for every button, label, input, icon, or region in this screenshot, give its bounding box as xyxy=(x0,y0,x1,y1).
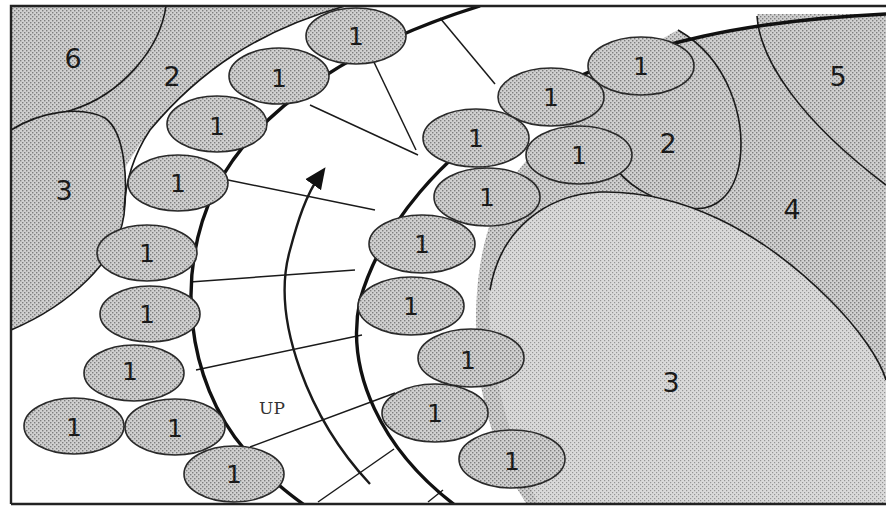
region-label-4: 4 xyxy=(783,194,800,225)
svg-text:1: 1 xyxy=(66,413,82,442)
region-label-3-bottom-right: 3 xyxy=(662,367,679,398)
cell: 1 xyxy=(418,329,524,387)
svg-text:1: 1 xyxy=(348,22,364,51)
svg-text:1: 1 xyxy=(543,83,559,112)
cell: 1 xyxy=(358,277,464,335)
cell: 1 xyxy=(167,96,267,152)
svg-text:1: 1 xyxy=(504,447,520,476)
svg-text:1: 1 xyxy=(633,52,649,81)
svg-text:1: 1 xyxy=(414,230,430,259)
cell: 1 xyxy=(434,168,540,226)
svg-text:1: 1 xyxy=(209,112,225,141)
cell: 1 xyxy=(369,215,475,273)
cell: 1 xyxy=(459,430,565,488)
svg-text:1: 1 xyxy=(167,414,183,443)
svg-text:1: 1 xyxy=(468,124,484,153)
svg-text:1: 1 xyxy=(226,460,242,489)
channel-diagram: 1 1 1 1 1 1 1 1 xyxy=(0,0,886,509)
svg-text:1: 1 xyxy=(271,64,287,93)
svg-text:1: 1 xyxy=(139,300,155,329)
svg-text:1: 1 xyxy=(403,292,419,321)
flow-label-up: UP xyxy=(259,398,285,418)
region-label-5: 5 xyxy=(829,61,846,92)
cell: 1 xyxy=(526,126,632,184)
region-label-2-right: 2 xyxy=(659,128,676,159)
cell: 1 xyxy=(306,8,406,64)
svg-text:1: 1 xyxy=(427,399,443,428)
cell: 1 xyxy=(24,398,124,454)
cell: 1 xyxy=(125,399,225,455)
cell: 1 xyxy=(100,286,200,342)
cell: 1 xyxy=(382,384,488,442)
svg-text:1: 1 xyxy=(460,346,476,375)
svg-text:1: 1 xyxy=(479,183,495,212)
cell: 1 xyxy=(588,37,694,95)
svg-text:1: 1 xyxy=(139,239,155,268)
svg-text:1: 1 xyxy=(122,357,138,386)
region-label-2-left: 2 xyxy=(163,61,180,92)
cell: 1 xyxy=(128,155,228,211)
cell: 1 xyxy=(423,109,529,167)
svg-text:1: 1 xyxy=(571,141,587,170)
svg-text:1: 1 xyxy=(170,169,186,198)
cell: 1 xyxy=(184,446,284,502)
region-label-3-left: 3 xyxy=(55,175,72,206)
cell: 1 xyxy=(97,225,197,281)
cell: 1 xyxy=(229,48,329,104)
cell: 1 xyxy=(84,345,184,401)
region-label-6: 6 xyxy=(64,43,81,74)
